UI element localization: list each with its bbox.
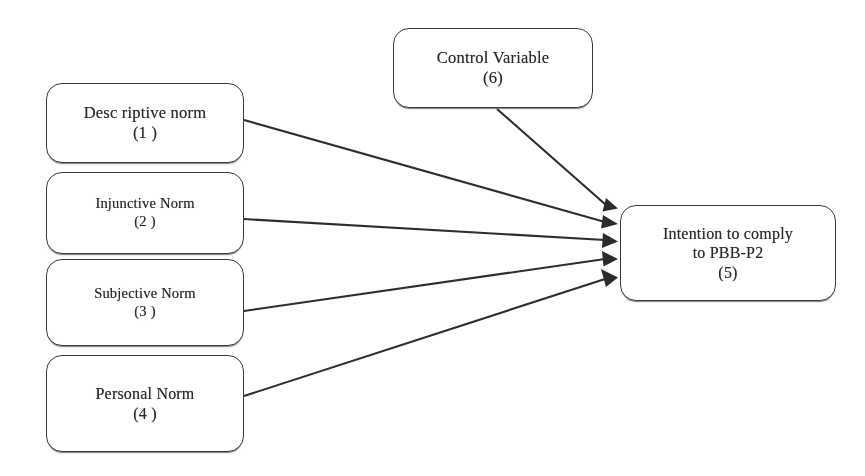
edge-subjective-to-intention [244,251,618,311]
node-intention-label-line1: Intention to comply [663,224,793,244]
edge-personal-to-intention [244,269,618,396]
node-descriptive-norm[interactable]: Desc riptive norm (1 ) [46,83,244,163]
node-injunctive-norm-number: (2 ) [134,213,155,231]
node-personal-norm[interactable]: Personal Norm (4 ) [46,355,244,452]
node-personal-norm-number: (4 ) [133,404,156,424]
node-intention-number: (5) [718,263,737,283]
arrowhead-injunctive [602,233,618,248]
edge-injunctive-to-intention [244,219,618,248]
edge-descriptive-to-intention [244,120,618,229]
arrowhead-personal [601,269,618,287]
arrowhead-descriptive [601,215,618,229]
node-intention-label-line2: to PBB-P2 [693,243,764,263]
node-control-variable[interactable]: Control Variable (6) [393,28,593,108]
node-personal-norm-label: Personal Norm [95,384,194,404]
node-descriptive-norm-label: Desc riptive norm [84,103,207,123]
node-control-variable-label: Control Variable [437,48,549,68]
diagram-canvas: Desc riptive norm (1 ) Injunctive Norm (… [0,0,865,476]
node-descriptive-norm-number: (1 ) [133,123,157,143]
node-subjective-norm-number: (3 ) [134,303,155,321]
node-injunctive-norm-label: Injunctive Norm [95,195,194,213]
arrowhead-control [603,198,619,212]
node-injunctive-norm[interactable]: Injunctive Norm (2 ) [46,172,244,254]
node-subjective-norm-label: Subjective Norm [94,285,196,303]
node-intention-to-comply[interactable]: Intention to comply to PBB-P2 (5) [620,205,836,301]
node-control-variable-number: (6) [483,68,503,88]
node-subjective-norm[interactable]: Subjective Norm (3 ) [46,259,244,346]
edge-control-to-intention [497,109,618,212]
arrowhead-subjective [602,251,618,267]
